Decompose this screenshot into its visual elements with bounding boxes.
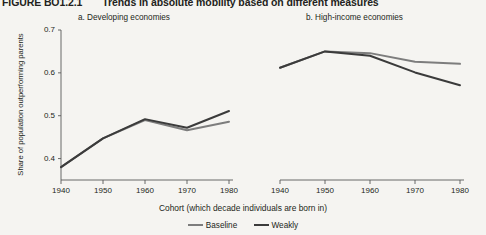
chart-plot-area xyxy=(0,0,486,235)
y-tick-label: 0.4 xyxy=(35,154,55,163)
x-axis-title: Cohort (which decade individuals are bor… xyxy=(0,203,486,213)
y-tick-label: 0.7 xyxy=(35,25,55,34)
x-tick-label: 1960 xyxy=(355,186,385,195)
legend-swatch-baseline xyxy=(188,224,203,227)
y-tick-label: 0.6 xyxy=(35,68,55,77)
chart-legend: Baseline Weakly xyxy=(0,221,486,230)
x-tick-label: 1970 xyxy=(400,186,430,195)
x-tick-label: 1940 xyxy=(265,186,295,195)
x-tick-label: 1980 xyxy=(214,186,244,195)
legend-item-baseline: Baseline xyxy=(188,221,237,230)
legend-swatch-weakly xyxy=(254,224,269,227)
legend-label-baseline: Baseline xyxy=(206,221,237,230)
x-tick-label: 1940 xyxy=(46,186,76,195)
legend-item-weakly: Weakly xyxy=(254,221,299,230)
x-tick-label: 1980 xyxy=(445,186,475,195)
x-tick-label: 1960 xyxy=(130,186,160,195)
x-tick-label: 1950 xyxy=(310,186,340,195)
x-tick-label: 1970 xyxy=(172,186,202,195)
y-tick-label: 0.5 xyxy=(35,111,55,120)
legend-label-weakly: Weakly xyxy=(272,221,299,230)
x-tick-label: 1950 xyxy=(88,186,118,195)
